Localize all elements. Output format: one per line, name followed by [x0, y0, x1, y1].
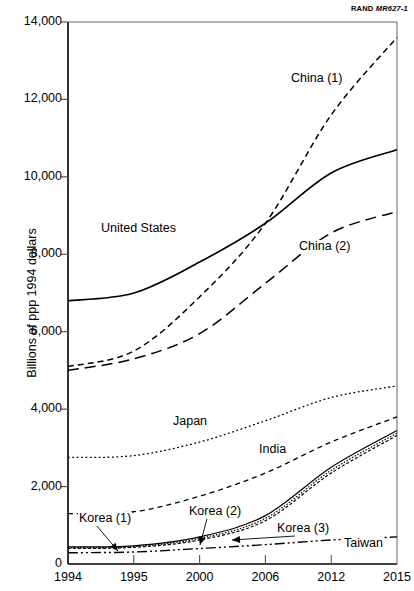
series-label-korea-3: Korea (3) [276, 522, 330, 535]
credit-org: RAND [351, 4, 373, 13]
x-tick-label: 2015 [367, 571, 414, 584]
series-line [68, 37, 397, 366]
y-tick-label: 2,000 [6, 480, 62, 493]
axes [61, 22, 397, 564]
label-leader-line [232, 536, 295, 540]
label-leader-arrowhead [232, 536, 240, 543]
series-label-korea-2: Korea (2) [188, 505, 242, 518]
series-label-korea-1: Korea (1) [78, 512, 132, 525]
y-tick-label: 6,000 [6, 325, 62, 338]
series-line [68, 430, 397, 547]
credit-docnum: MR627-1 [376, 4, 408, 13]
series-label-japan: Japan [172, 415, 208, 428]
series-label-india: India [258, 443, 287, 456]
series-line [68, 212, 397, 371]
series-label-united-states: United States [100, 222, 177, 235]
x-axis-tick-marks [134, 555, 331, 564]
data-series [68, 37, 397, 552]
series-label-china-1: China (1) [290, 72, 343, 85]
plot-area [0, 0, 414, 591]
y-tick-label: 4,000 [6, 402, 62, 415]
chart-figure: RAND MR627-1 Billions of ppp 1994 dollar… [0, 0, 414, 591]
series-label-taiwan: Taiwan [343, 537, 384, 550]
x-tick-label: 2012 [301, 571, 361, 584]
x-tick-label: 1995 [104, 571, 164, 584]
y-tick-label: 12,000 [6, 92, 62, 105]
y-tick-label: 10,000 [6, 170, 62, 183]
series-label-china-2: China (2) [298, 240, 351, 253]
series-line [68, 435, 397, 548]
rand-credit: RAND MR627-1 [351, 4, 408, 13]
x-tick-label: 1994 [38, 571, 98, 584]
x-tick-label: 2000 [170, 571, 230, 584]
y-tick-label: 0 [6, 557, 62, 570]
y-axis-tick-marks [61, 22, 68, 487]
y-tick-label: 8,000 [6, 247, 62, 260]
series-line [68, 433, 397, 548]
series-line [68, 386, 397, 458]
y-axis-title: Billions of ppp 1994 dollars [25, 183, 39, 423]
x-tick-label: 2006 [235, 571, 295, 584]
y-tick-label: 14,000 [6, 15, 62, 28]
